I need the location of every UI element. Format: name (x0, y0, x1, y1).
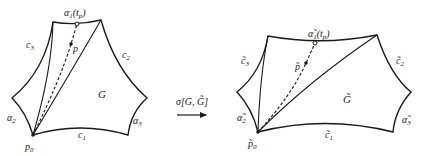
left-alpha1-label: α1(tp) (64, 7, 86, 20)
left-c3-label: c3 (26, 39, 34, 52)
mapping-label: σ[G, G̃] (176, 95, 208, 107)
left-boundary (12, 20, 147, 135)
right-point-p0 (256, 130, 260, 134)
right-alpha3-label: α̃3 (402, 114, 411, 127)
left-c1-label: c1 (78, 129, 86, 142)
mapping: σ[G, G̃] (176, 95, 208, 118)
left-point-p0 (31, 133, 35, 137)
arrow-head-icon (200, 112, 207, 118)
right-c1-label: c̃1 (325, 129, 333, 142)
left-c2-label: c2 (122, 49, 130, 62)
right-diagonal-1 (258, 36, 268, 132)
right-p-label: p̃ (294, 61, 300, 72)
left-dashed-path (33, 24, 77, 135)
right-alpha1-point (313, 41, 317, 45)
right-alpha1-label: α̃1(tp) (308, 28, 330, 41)
left-p0-label: p0 (24, 141, 34, 154)
left-alpha1-point (75, 22, 79, 26)
right-point-p (304, 61, 308, 65)
left-p-label: p (72, 43, 78, 54)
right-p0-label: p̃0 (247, 138, 257, 151)
right-figure: α̃1(tp) p̃ c̃3 c̃2 G̃ α̃2 α̃3 c̃1 p̃0 (237, 28, 411, 151)
left-diagonal-2 (33, 20, 101, 135)
right-c3-label: c̃3 (241, 55, 249, 68)
right-boundary (237, 35, 411, 132)
right-diagonal-2 (258, 35, 377, 132)
left-alpha3-label: α3 (133, 115, 142, 128)
right-alpha2-label: α̃2 (237, 112, 246, 125)
right-c2-label: c̃2 (396, 55, 404, 68)
left-alpha2-label: α2 (7, 112, 16, 125)
right-region-G-label: G̃ (343, 93, 351, 105)
left-region-G-label: G (98, 88, 106, 100)
diagram-canvas: α1(tp) p c3 c2 G α2 α3 c1 p0 σ[G, G̃] α̃… (0, 0, 424, 156)
left-figure: α1(tp) p c3 c2 G α2 α3 c1 p0 (7, 7, 147, 154)
